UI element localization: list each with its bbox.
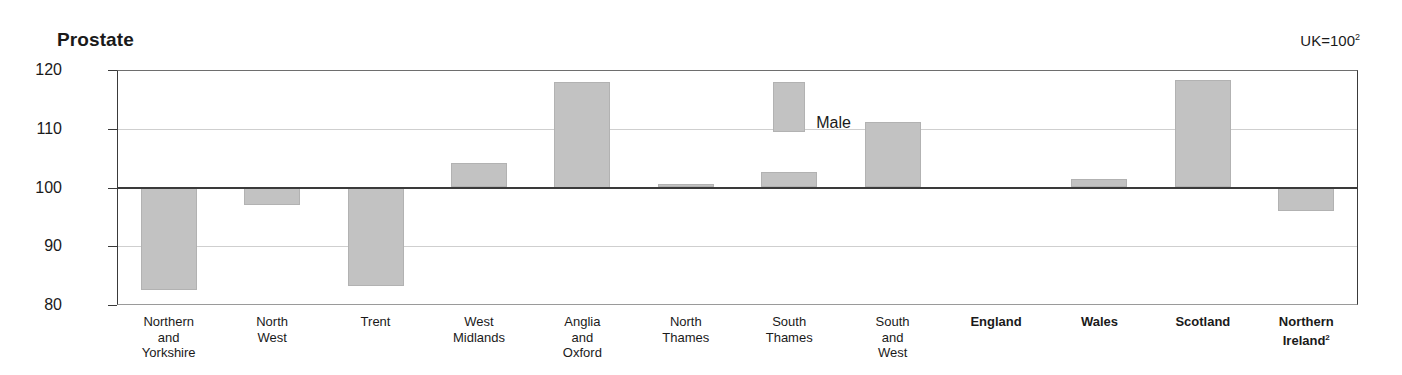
gridline-90: [117, 246, 1358, 247]
x-label-line: West: [841, 345, 944, 361]
x-label-line: and: [841, 330, 944, 346]
x-axis-label-northern-and-yorkshire: NorthernandYorkshire: [117, 314, 220, 361]
baseline-100: [117, 187, 1358, 189]
x-label-line: and: [117, 330, 220, 346]
x-axis-label-south-thames: SouthThames: [738, 314, 841, 345]
bar-north-west: [244, 188, 300, 206]
y-tick-mark-120: [108, 70, 117, 71]
bar-west-midlands: [451, 163, 507, 188]
bar-south-thames: [761, 172, 817, 188]
y-tick-label-110: 110: [2, 121, 62, 137]
x-label-line: Scotland: [1151, 314, 1254, 330]
legend: Male: [773, 82, 851, 132]
y-tick-mark-110: [108, 129, 117, 130]
x-label-line: North: [634, 314, 737, 330]
index-note: UK=1002: [1300, 33, 1360, 48]
bar-anglia-and-oxford: [554, 82, 610, 188]
x-axis-label-wales: Wales: [1048, 314, 1151, 330]
x-label-line: Yorkshire: [117, 345, 220, 361]
bar-northern-ireland: [1278, 188, 1334, 212]
x-label-line: Midlands: [427, 330, 530, 346]
x-axis-label-england: England: [944, 314, 1047, 330]
x-axis-label-west-midlands: WestMidlands: [427, 314, 530, 345]
y-tick-label-80: 80: [2, 297, 62, 313]
x-label-line: Thames: [738, 330, 841, 346]
x-axis-label-trent: Trent: [324, 314, 427, 330]
x-label-line: South: [738, 314, 841, 330]
plot-area: 1201101009080 Male: [117, 70, 1358, 305]
x-label-line: Oxford: [531, 345, 634, 361]
legend-swatch-male: [773, 82, 805, 132]
y-tick-label-90: 90: [2, 238, 62, 254]
chart-title: Prostate: [57, 30, 134, 49]
x-label-line: Thames: [634, 330, 737, 346]
x-axis-label-north-thames: NorthThames: [634, 314, 737, 345]
x-axis-label-anglia-and-oxford: AngliaandOxford: [531, 314, 634, 361]
x-label-line: South: [841, 314, 944, 330]
x-label-line: Northern: [1255, 314, 1358, 330]
y-tick-mark-90: [108, 246, 117, 247]
bar-northern-and-yorkshire: [141, 188, 197, 291]
gridline-110: [117, 129, 1358, 130]
x-label-line: Anglia: [531, 314, 634, 330]
x-label-line: West: [427, 314, 530, 330]
x-axis-category-labels: NorthernandYorkshireNorthWestTrentWestMi…: [117, 314, 1358, 372]
x-label-line: Northern: [117, 314, 220, 330]
x-label-line: Trent: [324, 314, 427, 330]
x-label-line: Ireland2: [1255, 330, 1358, 349]
index-note-superscript: 2: [1355, 32, 1360, 42]
x-label-line: North: [220, 314, 323, 330]
index-note-text: UK=100: [1300, 32, 1355, 49]
y-tick-mark-100: [108, 188, 117, 189]
x-label-line: England: [944, 314, 1047, 330]
y-tick-label-120: 120: [2, 62, 62, 78]
bar-trent: [348, 188, 404, 286]
x-axis-label-south-and-west: SouthandWest: [841, 314, 944, 361]
x-axis-label-north-west: NorthWest: [220, 314, 323, 345]
legend-label-male: Male: [816, 83, 851, 131]
x-axis-label-northern-ireland: NorthernIreland2: [1255, 314, 1358, 348]
x-label-line: and: [531, 330, 634, 346]
x-label-line: Wales: [1048, 314, 1151, 330]
x-axis-label-scotland: Scotland: [1151, 314, 1254, 330]
y-tick-mark-80: [108, 305, 117, 306]
x-label-superscript: 2: [1325, 333, 1329, 342]
bar-south-and-west: [865, 122, 921, 188]
x-label-line: West: [220, 330, 323, 346]
bar-scotland: [1175, 80, 1231, 188]
y-tick-label-100: 100: [2, 180, 62, 196]
